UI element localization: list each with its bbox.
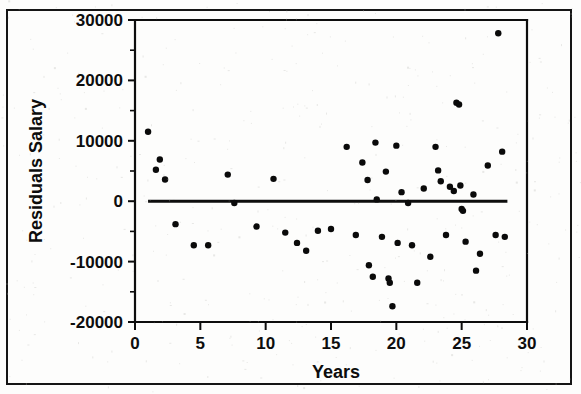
data-point bbox=[477, 251, 483, 257]
data-point bbox=[153, 167, 159, 173]
data-point bbox=[366, 262, 372, 268]
x-tick-label: 15 bbox=[322, 334, 341, 353]
y-axis-title: Residuals Salary bbox=[26, 99, 46, 243]
data-point bbox=[421, 185, 427, 191]
data-point bbox=[409, 242, 415, 248]
data-point bbox=[303, 248, 309, 254]
data-point bbox=[374, 196, 380, 202]
data-point bbox=[372, 139, 378, 145]
y-tick-label: 0 bbox=[114, 192, 123, 211]
y-tick-label: -20000 bbox=[70, 313, 123, 332]
data-point bbox=[353, 232, 359, 238]
scatter-plot-figure: -20000-100000100002000030000051015202530… bbox=[0, 0, 581, 394]
x-tick-label: 30 bbox=[518, 334, 537, 353]
data-point bbox=[162, 176, 168, 182]
data-point bbox=[456, 101, 462, 107]
data-point bbox=[443, 232, 449, 238]
data-point bbox=[435, 167, 441, 173]
data-point bbox=[231, 200, 237, 206]
data-point bbox=[414, 280, 420, 286]
x-tick-label: 20 bbox=[387, 334, 406, 353]
data-point bbox=[383, 168, 389, 174]
data-point bbox=[438, 178, 444, 184]
data-point bbox=[398, 189, 404, 195]
data-point bbox=[328, 226, 334, 232]
y-tick-label: 30000 bbox=[76, 11, 123, 30]
data-point bbox=[495, 30, 501, 36]
data-point bbox=[492, 232, 498, 238]
data-point bbox=[370, 274, 376, 280]
data-point bbox=[191, 242, 197, 248]
data-point bbox=[462, 238, 468, 244]
data-point bbox=[379, 234, 385, 240]
data-point bbox=[387, 280, 393, 286]
data-point bbox=[394, 240, 400, 246]
y-tick-label: 20000 bbox=[76, 71, 123, 90]
data-point bbox=[157, 156, 163, 162]
data-point bbox=[432, 144, 438, 150]
y-tick-label: -10000 bbox=[70, 253, 123, 272]
data-point bbox=[145, 129, 151, 135]
data-point bbox=[457, 182, 463, 188]
data-point bbox=[470, 191, 476, 197]
y-tick-label: 10000 bbox=[76, 132, 123, 151]
x-tick-label: 0 bbox=[130, 334, 139, 353]
data-point bbox=[225, 171, 231, 177]
data-point bbox=[389, 303, 395, 309]
data-point bbox=[359, 159, 365, 165]
data-point bbox=[393, 142, 399, 148]
data-point bbox=[205, 242, 211, 248]
x-axis-title: Years bbox=[312, 362, 360, 382]
data-point bbox=[253, 223, 259, 229]
data-point bbox=[343, 144, 349, 150]
x-tick-label: 25 bbox=[452, 334, 471, 353]
data-point bbox=[473, 267, 479, 273]
plot-canvas: -20000-100000100002000030000051015202530… bbox=[0, 0, 581, 394]
data-point bbox=[499, 148, 505, 154]
data-point bbox=[485, 162, 491, 168]
data-point bbox=[294, 240, 300, 246]
data-point bbox=[282, 229, 288, 235]
data-point bbox=[427, 254, 433, 260]
data-point bbox=[172, 221, 178, 227]
data-point bbox=[405, 200, 411, 206]
data-point bbox=[502, 234, 508, 240]
x-tick-label: 10 bbox=[256, 334, 275, 353]
data-point bbox=[451, 188, 457, 194]
data-point bbox=[364, 177, 370, 183]
data-point bbox=[460, 208, 466, 214]
data-point bbox=[270, 176, 276, 182]
data-point bbox=[315, 228, 321, 234]
x-tick-label: 5 bbox=[196, 334, 205, 353]
